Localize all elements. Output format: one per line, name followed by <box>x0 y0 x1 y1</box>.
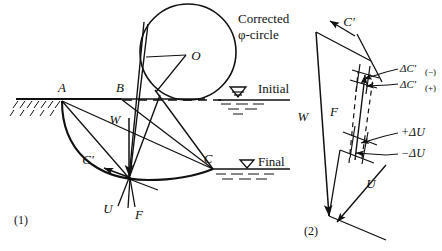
label-delta-U-minus: −ΔU <box>401 146 426 160</box>
label-vector-U-right: U <box>366 176 377 191</box>
ground-hatching <box>10 101 60 116</box>
label-delta-C-prime-plus-sub: (+) <box>425 83 436 93</box>
label-point-A: A <box>57 80 66 95</box>
label-point-B: B <box>116 80 124 95</box>
panel-label-2: (2) <box>304 224 318 238</box>
label-initial-water: Initial <box>258 81 289 96</box>
circle-center-radii <box>146 55 186 92</box>
label-vector-W-left: W <box>110 112 122 127</box>
label-point-O: O <box>191 48 201 63</box>
vector-U-right <box>329 150 386 240</box>
delta-U-arrows <box>356 133 398 155</box>
corrected-phi-circle <box>140 4 236 100</box>
vector-C-prime-right <box>316 21 382 82</box>
left-panel: A B C O Corrected φ-circle Initial Final… <box>10 4 290 227</box>
label-delta-C-prime-minus-sub: (−) <box>425 67 436 77</box>
label-delta-C-prime-plus: ΔC′ (+) <box>399 78 436 93</box>
label-delta-C-prime-minus: ΔC′ (−) <box>399 62 436 77</box>
label-delta-C-prime-plus-base: ΔC′ <box>399 78 417 90</box>
label-vector-F-left: F <box>134 207 144 222</box>
slope-stability-figure: A B C O Corrected φ-circle Initial Final… <box>0 0 442 251</box>
label-vector-C-prime-left: C′ <box>82 152 94 167</box>
label-vector-W-right: W <box>298 109 310 124</box>
label-delta-U-plus: +ΔU <box>401 125 426 139</box>
figure-root: A B C O Corrected φ-circle Initial Final… <box>0 0 442 251</box>
panel-label-1: (1) <box>14 213 28 227</box>
label-delta-C-prime-minus-base: ΔC′ <box>399 62 417 74</box>
label-vector-C-prime-right: C′ <box>343 14 355 29</box>
vector-U-F-left <box>118 178 158 208</box>
label-vector-F-right: F <box>329 104 339 119</box>
label-point-C: C <box>204 151 213 166</box>
label-vector-U-left: U <box>103 201 114 216</box>
vector-W-right <box>316 32 329 216</box>
right-panel: C′ W F U ΔC′ (−) ΔC′ (+) +ΔU −ΔU (2) <box>298 14 437 240</box>
label-phi-circle-line2: φ-circle <box>238 27 279 42</box>
label-corrected-line1: Corrected <box>238 11 290 26</box>
label-final-water: Final <box>258 154 285 169</box>
